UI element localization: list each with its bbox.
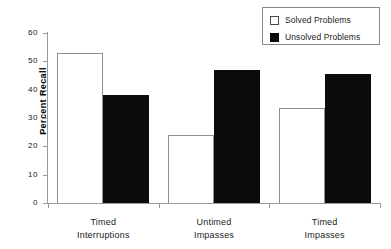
x-category-label: TimedImpasses bbox=[270, 216, 380, 242]
x-category-label: UntimedImpasses bbox=[159, 216, 269, 242]
x-category-line: Impasses bbox=[270, 229, 380, 242]
x-group-tick bbox=[380, 203, 381, 208]
x-axis-line bbox=[47, 203, 381, 204]
x-category-line: Untimed bbox=[159, 216, 269, 229]
x-category-label: TimedInterruptions bbox=[48, 216, 158, 242]
y-tick-label: 20 bbox=[18, 142, 38, 150]
bar-unsolved-3 bbox=[325, 74, 371, 203]
x-group-tick bbox=[159, 203, 160, 208]
y-tick-label: 40 bbox=[18, 86, 38, 94]
bar-solved-1 bbox=[57, 53, 103, 203]
x-category-line: Timed bbox=[48, 216, 158, 229]
y-tick-label: 0 bbox=[18, 199, 38, 207]
y-tick-label: 30 bbox=[18, 114, 38, 122]
x-category-line: Timed bbox=[270, 216, 380, 229]
bar-solved-3 bbox=[279, 108, 325, 203]
plot-area bbox=[48, 33, 380, 203]
legend-label-solved: Solved Problems bbox=[285, 15, 351, 25]
open-square-icon bbox=[270, 16, 279, 25]
y-tick-label: 60 bbox=[18, 29, 38, 37]
bar-unsolved-1 bbox=[103, 95, 149, 203]
bar-chart-figure: Solved Problems Unsolved Problems Percen… bbox=[0, 0, 391, 249]
bar-solved-2 bbox=[168, 135, 214, 203]
legend-item-solved: Solved Problems bbox=[270, 13, 379, 27]
x-group-tick bbox=[48, 203, 49, 208]
bar-unsolved-2 bbox=[214, 70, 260, 203]
y-tick-label: 10 bbox=[18, 171, 38, 179]
x-group-tick bbox=[269, 203, 270, 208]
y-tick-label: 50 bbox=[18, 57, 38, 65]
x-category-line: Interruptions bbox=[48, 229, 158, 242]
x-category-line: Impasses bbox=[159, 229, 269, 242]
